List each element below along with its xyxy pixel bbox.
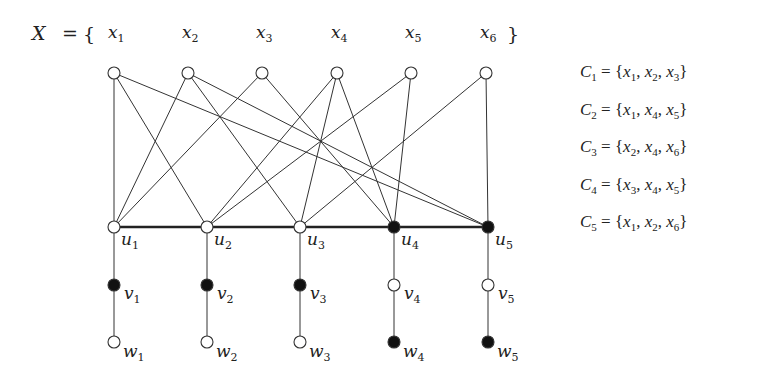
variable-label-x4: x4 [331, 22, 348, 45]
close-brace: } [507, 23, 519, 45]
variable-node-x4 [331, 67, 343, 79]
u-label-1: u1 [121, 229, 139, 252]
w-node-4 [388, 336, 400, 348]
u-node-5 [482, 221, 494, 233]
variable-label-x1: x1 [108, 22, 125, 45]
w-node-1 [108, 336, 120, 348]
u-node-1 [108, 221, 120, 233]
w-node-3 [294, 336, 306, 348]
u-label-2: u2 [214, 229, 232, 252]
variable-label-x6: x6 [480, 22, 497, 45]
v-label-5: v5 [498, 283, 515, 306]
w-node-5 [482, 336, 494, 348]
v-label-1: v1 [124, 283, 141, 306]
u-node-2 [201, 221, 213, 233]
u-node-4 [388, 221, 400, 233]
w-label-1: w1 [123, 341, 145, 364]
edge-x1-u2 [114, 73, 207, 227]
equals-sign: = [62, 22, 78, 44]
w-label-4: w4 [403, 341, 425, 364]
v-label-2: v2 [217, 283, 234, 306]
w-label-3: w3 [309, 341, 331, 364]
edge-x4-u2 [207, 73, 337, 227]
u-label-5: u5 [495, 229, 513, 252]
edges [114, 73, 488, 342]
variable-label-x2: x2 [182, 22, 199, 45]
u-node-3 [294, 221, 306, 233]
clause-list: C1 = {x1, x2, x3}C2 = {x1, x4, x5}C3 = {… [580, 62, 687, 250]
edge-x4-u3 [300, 73, 337, 227]
variable-label-x5: x5 [405, 22, 422, 45]
edge-x2-u1 [114, 73, 188, 227]
edge-x3-u1 [114, 73, 262, 227]
set-name: X [30, 22, 47, 44]
w-node-2 [201, 336, 213, 348]
w-label-5: w5 [497, 341, 519, 364]
clause-C2: C2 = {x1, x4, x5} [580, 100, 687, 138]
edge-x5-u4 [394, 73, 411, 227]
v-node-5 [482, 279, 494, 291]
v-node-4 [388, 279, 400, 291]
edge-x5-u2 [207, 73, 411, 227]
variable-label-x3: x3 [256, 22, 273, 45]
variable-node-x3 [256, 67, 268, 79]
variable-node-x5 [405, 67, 417, 79]
variable-node-x1 [108, 67, 120, 79]
u-label-3: u3 [307, 229, 325, 252]
edge-x6-u5 [486, 73, 488, 227]
clause-C4: C4 = {x3, x4, x5} [580, 175, 687, 213]
v-label-3: v3 [310, 283, 327, 306]
w-label-2: w2 [216, 341, 238, 364]
edge-x2-u5 [188, 73, 488, 227]
u-label-4: u4 [401, 229, 419, 252]
variable-node-x6 [480, 67, 492, 79]
edge-x1-u5 [114, 73, 488, 227]
nodes [108, 67, 494, 348]
open-brace: { [83, 23, 95, 45]
edge-x2-u3 [188, 73, 300, 227]
v-node-2 [201, 279, 213, 291]
variable-node-x2 [182, 67, 194, 79]
clause-C3: C3 = {x2, x4, x6} [580, 137, 687, 175]
v-node-3 [294, 279, 306, 291]
clause-C5: C5 = {x1, x2, x6} [580, 212, 687, 250]
v-node-1 [108, 279, 120, 291]
v-label-4: v4 [404, 283, 421, 306]
clause-C1: C1 = {x1, x2, x3} [580, 62, 687, 100]
edge-x4-u4 [337, 73, 394, 227]
